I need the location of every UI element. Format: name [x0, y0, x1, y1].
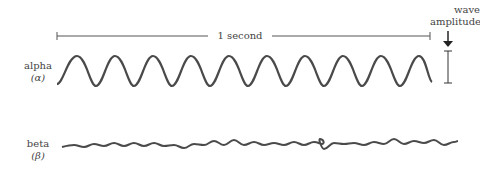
alpha-name: alpha [18, 60, 58, 72]
beta-symbol: (β) [18, 150, 58, 162]
alpha-symbol: (α) [18, 72, 58, 84]
alpha-wave [57, 56, 432, 86]
time-scale-label: 1 second [208, 30, 272, 42]
alpha-label: alpha (α) [18, 60, 58, 84]
brainwave-diagram [0, 0, 480, 173]
beta-name: beta [18, 138, 58, 150]
amplitude-indicator [443, 31, 453, 83]
beta-label: beta (β) [18, 138, 58, 162]
beta-wave [62, 139, 458, 149]
amplitude-label: wave amplitude [430, 4, 480, 28]
amplitude-label-line1: wave [430, 4, 480, 16]
amplitude-label-line2: amplitude [430, 16, 480, 28]
